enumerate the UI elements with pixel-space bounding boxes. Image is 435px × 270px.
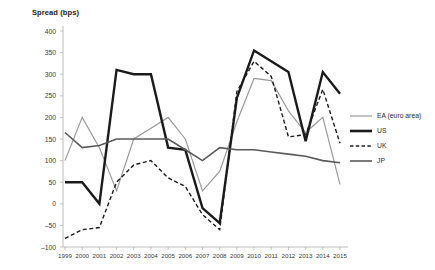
line-swatch-solid-bold [350,127,372,135]
legend-item-ea[interactable]: EA (euro area) [350,108,421,123]
line-swatch-solid-medium [350,157,372,165]
line-swatch-dashed [350,142,372,150]
legend-item-uk[interactable]: UK [350,138,421,153]
line-swatch-solid-light [350,112,372,120]
legend-label: JP [377,157,385,164]
legend-label: EA (euro area) [377,112,421,119]
legend-item-us[interactable]: US [350,123,421,138]
series-line-ea [65,79,340,191]
legend-label: US [377,127,386,134]
series-line-us [65,50,340,223]
chart-container: Spread (bps) 400350300250200150100500–50… [0,0,435,270]
legend-item-jp[interactable]: JP [350,153,421,168]
chart-legend: EA (euro area)USUKJP [350,108,421,168]
legend-label: UK [377,142,386,149]
